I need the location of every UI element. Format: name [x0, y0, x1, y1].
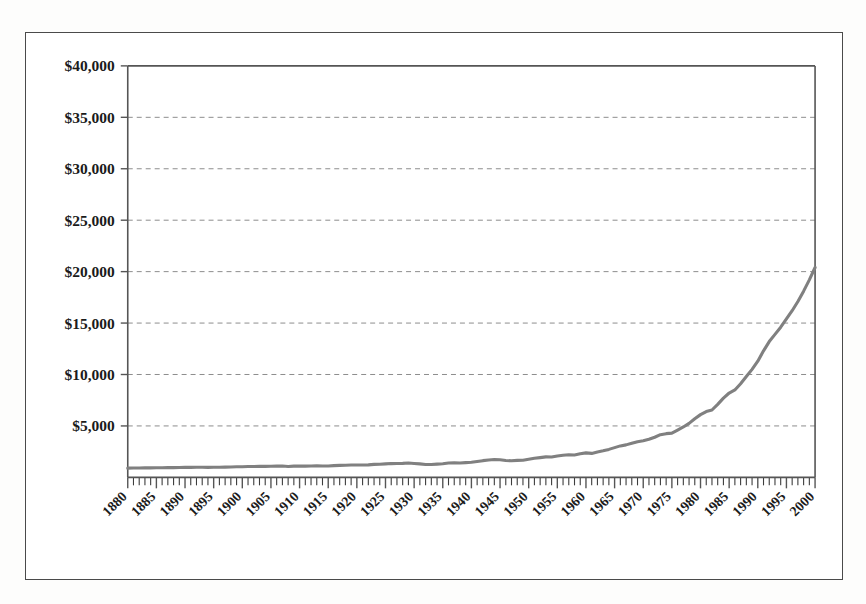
- series-line-value: [128, 268, 815, 469]
- x-axis-tick-label: 1970: [615, 489, 645, 519]
- x-axis-tick-label: 1930: [386, 489, 416, 519]
- x-axis-tick-label: 1895: [185, 489, 215, 519]
- x-axis-tick-label: 1890: [157, 489, 187, 519]
- x-axis-tick-label: 1915: [300, 489, 330, 519]
- x-axis-tick-label: 1980: [672, 489, 702, 519]
- x-axis-tick-label: 1965: [586, 489, 616, 519]
- y-axis-tick-label: $15,000: [65, 315, 115, 332]
- x-axis-tick-label: 1940: [443, 489, 473, 519]
- x-axis-tick-label: 1905: [243, 489, 273, 519]
- y-axis-tick-label: $40,000: [65, 57, 115, 74]
- x-axis-tick-label: 1955: [529, 489, 559, 519]
- x-axis-tick-label: 1995: [758, 489, 788, 519]
- y-axis-tick-labels: $40,000$35,000$30,000$25,000$20,000$15,0…: [65, 57, 115, 434]
- x-axis-tick-label: 1960: [558, 489, 588, 519]
- figure-frame: $40,000$35,000$30,000$25,000$20,000$15,0…: [25, 32, 843, 580]
- y-axis-tick-label: $35,000: [65, 109, 115, 126]
- gridlines: [128, 117, 815, 426]
- line-chart: $40,000$35,000$30,000$25,000$20,000$15,0…: [26, 33, 842, 579]
- y-axis-tick-label: $20,000: [65, 263, 115, 280]
- x-axis-tick-label: 1975: [644, 489, 674, 519]
- y-axis-tick-label: $5,000: [72, 417, 115, 434]
- y-axis-tick-label: $30,000: [65, 160, 115, 177]
- x-axis-tick-label: 1900: [214, 489, 244, 519]
- x-axis-tick-labels: 1880188518901895190019051910191519201925…: [100, 489, 818, 519]
- x-axis-tick-label: 1950: [500, 489, 530, 519]
- x-axis-tick-label: 1985: [701, 489, 731, 519]
- y-axis-tick-label: $10,000: [65, 366, 115, 383]
- axis-major-ticks: [121, 66, 815, 488]
- x-axis-tick-label: 2000: [787, 489, 817, 519]
- x-axis-tick-label: 1920: [329, 489, 359, 519]
- x-axis-tick-label: 1925: [357, 489, 387, 519]
- data-series-line: [128, 268, 815, 469]
- x-axis-tick-label: 1935: [415, 489, 445, 519]
- x-axis-tick-label: 1910: [271, 489, 301, 519]
- x-axis-tick-label: 1880: [100, 489, 130, 519]
- scanned-page: $40,000$35,000$30,000$25,000$20,000$15,0…: [0, 0, 866, 604]
- y-axis-tick-label: $25,000: [65, 212, 115, 229]
- x-axis-tick-label: 1945: [472, 489, 502, 519]
- x-axis-tick-label: 1885: [128, 489, 158, 519]
- x-axis-tick-label: 1990: [730, 489, 760, 519]
